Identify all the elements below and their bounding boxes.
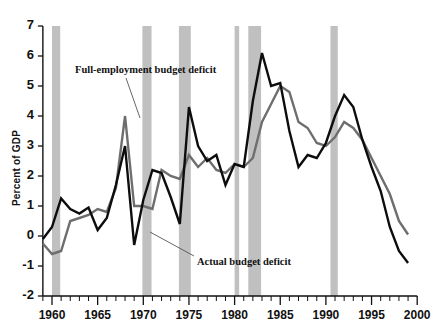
y-tick-label: -2	[12, 287, 34, 302]
chart-annotation: Actual budget deficit	[197, 256, 291, 267]
x-tick-label: 1995	[349, 308, 395, 322]
chart-annotation: Full-employment budget deficit	[75, 64, 216, 75]
x-tick-label: 1970	[120, 308, 166, 322]
y-tick-label: 0	[12, 227, 34, 242]
y-tick-label: 7	[12, 17, 34, 32]
recession-band	[330, 26, 337, 296]
y-tick-label: 4	[12, 107, 34, 122]
x-tick-label: 1975	[166, 308, 212, 322]
x-tick-label: 2000	[394, 308, 440, 322]
y-tick-label: 5	[12, 77, 34, 92]
x-tick-label: 1985	[257, 308, 303, 322]
y-tick-label: 1	[12, 197, 34, 212]
chart-series	[43, 53, 408, 263]
y-tick-label: 6	[12, 47, 34, 62]
series-line	[43, 53, 408, 263]
x-tick-label: 1965	[75, 308, 121, 322]
chart-plot-area	[0, 0, 448, 336]
chart-figure: Percent of GDP 76543210-1-2 196019651970…	[0, 0, 448, 336]
recession-band	[52, 26, 60, 296]
x-tick-label: 1980	[212, 308, 258, 322]
y-tick-label: -1	[12, 257, 34, 272]
x-tick-label: 1960	[29, 308, 75, 322]
x-tick-label: 1990	[303, 308, 349, 322]
y-tick-label: 3	[12, 137, 34, 152]
y-tick-label: 2	[12, 167, 34, 182]
